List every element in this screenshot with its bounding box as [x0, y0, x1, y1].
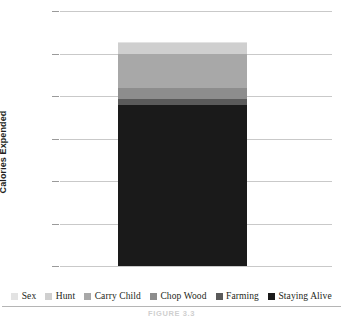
- chart-legend: SexHuntCarry ChildChop WoodFarmingStayin…: [0, 288, 343, 304]
- legend-item-farming[interactable]: Farming: [216, 291, 259, 301]
- bar-segment-carry-child[interactable]: [118, 54, 247, 88]
- legend-item-carry-child[interactable]: Carry Child: [84, 291, 141, 301]
- legend-label: Farming: [226, 291, 259, 301]
- y-axis-tick: [52, 139, 59, 140]
- legend-label: Carry Child: [95, 291, 141, 301]
- y-axis-title-text: Calories Expended: [0, 92, 8, 212]
- bar-stack: [118, 11, 247, 266]
- legend-swatch-icon: [216, 293, 223, 300]
- legend-label: Chop Wood: [160, 291, 206, 301]
- legend-label: Hunt: [56, 291, 75, 301]
- y-axis-tick: [52, 266, 59, 267]
- legend-label: Sex: [22, 291, 37, 301]
- y-axis-tick: [52, 54, 59, 55]
- legend-swatch-icon: [84, 293, 91, 300]
- legend-swatch-icon: [268, 293, 275, 300]
- y-axis-tick: [52, 181, 59, 182]
- bar-segment-farming[interactable]: [118, 99, 247, 105]
- legend-swatch-icon: [11, 293, 18, 300]
- y-axis-tick: [52, 224, 59, 225]
- plot-area: Calories Expended 3000250020001500100050…: [0, 0, 343, 283]
- bar-segment-chop-wood[interactable]: [118, 88, 247, 99]
- y-axis-tick: [52, 11, 59, 12]
- bar-segment-hunt[interactable]: [118, 43, 247, 54]
- legend-item-sex[interactable]: Sex: [11, 291, 36, 301]
- bar-segment-sex[interactable]: [118, 42, 247, 43]
- y-axis-title: Calories Expended: [0, 0, 8, 92]
- footer-divider: [2, 306, 341, 307]
- legend-item-chop-wood[interactable]: Chop Wood: [150, 291, 207, 301]
- stacked-bar[interactable]: [118, 0, 247, 283]
- legend-label: Staying Alive: [278, 291, 331, 301]
- legend-swatch-icon: [45, 293, 52, 300]
- y-axis-tick: [52, 96, 59, 97]
- figure-caption: FIGURE 3.3: [0, 309, 343, 317]
- legend-swatch-icon: [150, 293, 157, 300]
- legend-item-staying-alive[interactable]: Staying Alive: [268, 291, 332, 301]
- figure-container: Calories Expended 3000250020001500100050…: [0, 0, 343, 317]
- legend-item-hunt[interactable]: Hunt: [45, 291, 75, 301]
- bar-segment-staying-alive[interactable]: [118, 105, 247, 266]
